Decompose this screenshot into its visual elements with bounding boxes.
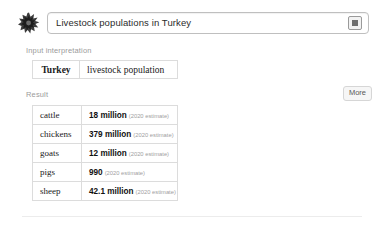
result-note: (2020 estimate) — [129, 113, 169, 119]
bottom-divider — [22, 216, 362, 217]
result-figure: 42.1 million(2020 estimate) — [82, 182, 178, 201]
input-interpretation-table: Turkey livestock population — [32, 60, 178, 79]
result-figure: 12 million(2020 estimate) — [82, 144, 178, 163]
result-animal: goats — [33, 144, 82, 163]
result-note: (2020 estimate) — [133, 132, 173, 138]
table-row: cattle 18 million(2020 estimate) — [33, 106, 178, 125]
result-animal: chickens — [33, 125, 82, 144]
result-figure: 379 million(2020 estimate) — [82, 125, 178, 144]
result-animal: pigs — [33, 163, 82, 182]
table-row: chickens 379 million(2020 estimate) — [33, 125, 178, 144]
interpretation-subject: Turkey — [33, 61, 80, 79]
result-figure: 18 million(2020 estimate) — [82, 106, 178, 125]
result-note: (2020 estimate) — [105, 170, 145, 176]
table-row: sheep 42.1 million(2020 estimate) — [33, 182, 178, 201]
result-note: (2020 estimate) — [129, 151, 169, 157]
result-table: cattle 18 million(2020 estimate) chicken… — [32, 105, 178, 201]
table-row: pigs 990(2020 estimate) — [33, 163, 178, 182]
result-amount: 42.1 million — [89, 187, 134, 196]
table-row: goats 12 million(2020 estimate) — [33, 144, 178, 163]
wolfram-spikey-icon — [18, 12, 40, 34]
result-amount: 18 million — [89, 111, 127, 120]
input-interpretation-label: Input interpretation — [26, 47, 92, 55]
result-animal: sheep — [33, 182, 82, 201]
query-input[interactable]: Livestock populations in Turkey — [47, 12, 369, 34]
wolframalpha-result-page: Livestock populations in Turkey Input in… — [0, 0, 384, 233]
query-bar-row: Livestock populations in Turkey — [0, 11, 384, 35]
result-label: Result — [26, 91, 48, 99]
result-amount: 990 — [89, 168, 103, 177]
interpretation-property: livestock population — [80, 61, 178, 79]
result-amount: 379 million — [89, 130, 131, 139]
result-note: (2020 estimate) — [136, 189, 176, 195]
keyboard-icon[interactable] — [348, 16, 362, 30]
query-input-text[interactable]: Livestock populations in Turkey — [48, 18, 348, 28]
result-figure: 990(2020 estimate) — [82, 163, 178, 182]
result-animal: cattle — [33, 106, 82, 125]
table-row: Turkey livestock population — [33, 61, 178, 79]
result-amount: 12 million — [89, 149, 127, 158]
more-button[interactable]: More — [343, 86, 372, 101]
